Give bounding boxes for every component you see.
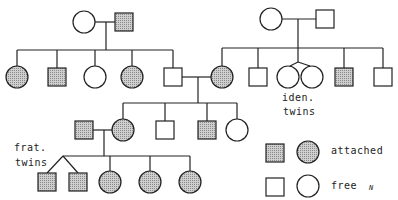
legend-free-label: free [331,180,357,191]
male-attached-square-icon [335,68,353,86]
female-free-circle-icon [73,11,95,33]
male-free-square-icon [164,68,182,86]
male-attached-square-icon [69,173,87,191]
pedigree-diagram: iden. twins frat. twins attached free N [0,0,398,200]
pedigree-canvas [0,0,398,200]
female-free-circle-icon [226,119,248,141]
legend-free-male-icon [266,178,284,196]
male-attached-square-icon [48,68,66,86]
pedigree-individuals [6,8,392,193]
relationship-line [290,62,298,66]
iden-twins-label-1: iden. [282,92,315,103]
frat-twins-label-2: twins [15,157,48,168]
male-attached-square-icon [38,173,56,191]
female-attached-circle-icon [121,66,143,88]
legend-attached-male-icon [266,144,284,162]
signature-mark: N [369,184,374,192]
female-attached-circle-icon [211,66,233,88]
relationship-line [63,156,78,173]
male-attached-square-icon [198,121,216,139]
legend-attached-female-icon [297,141,319,163]
male-free-square-icon [156,121,174,139]
female-attached-circle-icon [6,66,28,88]
female-attached-circle-icon [99,171,121,193]
iden-twins-label-2: twins [283,106,316,117]
frat-twins-label-1: frat. [14,142,47,153]
legend-free-female-icon [297,175,319,197]
male-attached-square-icon [115,13,133,31]
legend-attached-label: attached [331,145,383,156]
female-attached-circle-icon [112,119,134,141]
female-free-circle-icon [260,8,282,30]
legend-symbols [266,141,319,197]
male-free-square-icon [249,68,267,86]
pedigree-lines [17,19,383,173]
female-attached-circle-icon [139,171,161,193]
male-free-square-icon [374,68,392,86]
female-free-circle-icon [301,66,323,88]
female-attached-circle-icon [179,171,201,193]
male-free-square-icon [316,10,334,28]
male-attached-square-icon [75,121,93,139]
female-free-circle-icon [277,66,299,88]
relationship-line [47,156,63,173]
female-free-circle-icon [84,66,106,88]
relationship-line [298,62,310,66]
